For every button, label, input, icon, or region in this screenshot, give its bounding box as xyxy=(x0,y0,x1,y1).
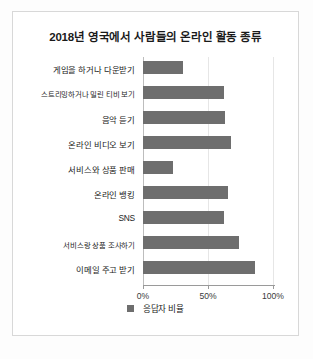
plot-wrapper: 게임을 하거나 다운받기 스트리밍하거나 밀린 티비 보기 음악 듣기 온라인 … xyxy=(13,57,298,289)
tick-mark-50 xyxy=(208,285,209,289)
tick-mark-0 xyxy=(143,285,144,289)
category-label-5: 온라인 뱅킹 xyxy=(11,188,135,200)
screenshot-page: 2018년 영국에서 사람들의 온라인 활동 종류 게임을 하거나 다운받기 스… xyxy=(0,0,313,359)
category-label-3: 온라인 비디오 보기 xyxy=(11,138,135,150)
chart-title: 2018년 영국에서 사람들의 온라인 활동 종류 xyxy=(13,28,298,44)
bar-8 xyxy=(143,261,255,274)
bar-0 xyxy=(143,61,183,74)
cut-off-caption xyxy=(10,349,210,359)
category-label-8: 이메일 주고 받기 xyxy=(11,263,135,275)
bar-1 xyxy=(143,86,224,99)
category-label-4: 서비스와 상품 판매 xyxy=(11,163,135,175)
category-label-6: SNS xyxy=(11,213,135,223)
chart-legend: 응답자 비율 xyxy=(13,302,298,314)
bar-4 xyxy=(143,161,173,174)
axis-baseline xyxy=(143,285,275,286)
tick-label-0: 0% xyxy=(137,291,149,301)
category-label-2: 음악 듣기 xyxy=(11,113,135,125)
chart-card: 2018년 영국에서 사람들의 온라인 활동 종류 게임을 하거나 다운받기 스… xyxy=(12,11,299,336)
category-label-0: 게임을 하거나 다운받기 xyxy=(11,63,135,75)
legend-label: 응답자 비율 xyxy=(143,302,184,314)
tick-mark-100 xyxy=(273,285,274,289)
tick-label-100: 100% xyxy=(262,291,284,301)
bar-5 xyxy=(143,186,228,199)
bar-2 xyxy=(143,111,225,124)
legend-swatch-icon xyxy=(127,305,134,312)
plot-area: 0% 50% 100% xyxy=(143,57,286,289)
tick-label-50: 50% xyxy=(199,291,216,301)
bar-6 xyxy=(143,211,224,224)
category-label-7: 서비스랑 상품 조사하기 xyxy=(11,239,135,250)
bar-3 xyxy=(143,136,231,149)
category-label-1: 스트리밍하거나 밀린 티비 보기 xyxy=(11,88,135,99)
category-axis-labels: 게임을 하거나 다운받기 스트리밍하거나 밀린 티비 보기 음악 듣기 온라인 … xyxy=(13,57,139,289)
bar-7 xyxy=(143,236,239,249)
gridline-100 xyxy=(273,57,274,285)
